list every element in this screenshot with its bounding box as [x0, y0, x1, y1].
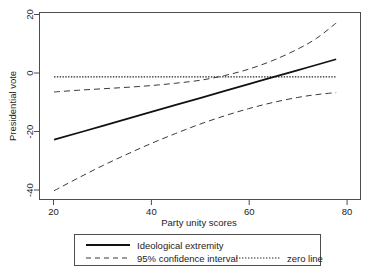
x-axis-ticks	[54, 200, 348, 206]
chart-svg: 20 0 -20 -40 Presidential vote 20 40 60 …	[0, 0, 375, 269]
x-axis-tick-labels: 20 40 60 80	[48, 206, 352, 217]
y-axis-title: Presidential vote	[7, 71, 18, 141]
series-ideological-extremity	[54, 59, 336, 139]
series-group	[54, 23, 336, 191]
y-axis-tick-labels: 20 0 -20 -40	[24, 9, 35, 197]
legend-label-confidence-interval: 95% confidence interval	[137, 253, 238, 264]
legend-label-ideological-extremity: Ideological extremity	[137, 240, 224, 251]
y-tick-label-0: 0	[24, 70, 35, 75]
y-tick-label-20: 20	[24, 9, 35, 20]
chart-legend: Ideological extremity 95% confidence int…	[75, 235, 323, 266]
legend-label-zero-line: zero line	[287, 253, 323, 264]
x-tick-label-80: 80	[342, 206, 353, 217]
x-tick-label-20: 20	[48, 206, 59, 217]
series-ci-lower	[54, 93, 336, 191]
y-axis-ticks	[34, 15, 40, 191]
y-tick-label-neg20: -20	[24, 125, 35, 139]
y-tick-label-neg40: -40	[24, 183, 35, 197]
series-ci-upper	[54, 23, 336, 92]
chart-figure: 20 0 -20 -40 Presidential vote 20 40 60 …	[0, 0, 375, 269]
x-tick-label-40: 40	[146, 206, 157, 217]
x-tick-label-60: 60	[244, 206, 255, 217]
x-axis-title: Party unity scores	[161, 217, 237, 228]
plot-area-frame	[40, 13, 361, 200]
